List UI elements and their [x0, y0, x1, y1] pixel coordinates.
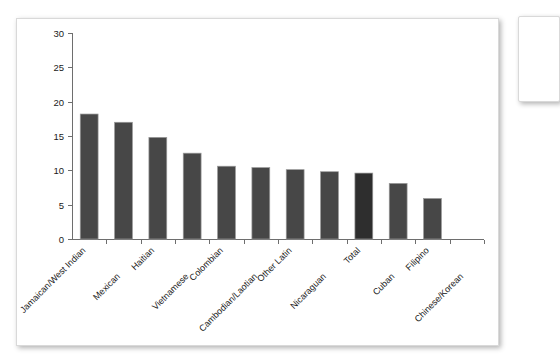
bar-other-latin[interactable]	[286, 170, 304, 239]
x-label-group: Cambodian/Laotian	[197, 271, 259, 333]
x-axis-label: Total	[342, 245, 363, 266]
y-tick-label: 0	[59, 234, 64, 245]
x-label-group: Jamaican/West Indian	[18, 245, 88, 315]
x-axis-label: Cuban	[371, 271, 397, 297]
y-tick-label: 20	[53, 97, 64, 108]
x-axis-label: Colombian	[187, 245, 224, 282]
bar-chart: 051015202530Jamaican/West IndianMexicanH…	[17, 19, 498, 345]
x-axis-label: Jamaican/West Indian	[18, 245, 88, 315]
bar-jamaican-west-indian[interactable]	[80, 114, 98, 239]
x-axis-label: Other Latin	[255, 245, 294, 284]
side-panel-card	[518, 16, 560, 102]
x-axis-label: Haitian	[129, 245, 156, 272]
x-label-group: Filipino	[404, 245, 431, 272]
x-label-group: Haitian	[129, 245, 156, 272]
bar-haitian[interactable]	[149, 137, 167, 239]
bar-vietnamese[interactable]	[183, 153, 201, 239]
y-tick-label: 5	[59, 200, 64, 211]
y-tick-label: 10	[53, 165, 64, 176]
x-label-group: Mexican	[91, 271, 122, 302]
x-label-group: Vietnamese	[150, 271, 191, 312]
bar-cambodian-laotian[interactable]	[252, 168, 270, 239]
x-label-group: Nicaraguan	[288, 271, 328, 311]
x-label-group: Cuban	[371, 271, 397, 297]
chart-card: 051015202530Jamaican/West IndianMexicanH…	[16, 18, 499, 346]
x-axis-label: Chinese/Korean	[413, 271, 466, 324]
bar-mexican[interactable]	[115, 122, 133, 239]
bar-cuban[interactable]	[389, 183, 407, 239]
x-axis-label: Cambodian/Laotian	[197, 271, 259, 333]
bar-filipino[interactable]	[424, 198, 442, 239]
x-axis-label: Nicaraguan	[288, 271, 328, 311]
x-label-group: Other Latin	[255, 245, 294, 284]
x-axis-label: Vietnamese	[150, 271, 191, 312]
y-tick-label: 30	[53, 28, 64, 39]
y-tick-label: 15	[53, 131, 64, 142]
x-axis-label: Filipino	[404, 245, 431, 272]
y-tick-label: 25	[53, 62, 64, 73]
x-label-group: Chinese/Korean	[413, 271, 466, 324]
chart-svg: 051015202530Jamaican/West IndianMexicanH…	[17, 19, 498, 345]
x-axis-label: Mexican	[91, 271, 122, 302]
x-label-group: Colombian	[187, 245, 224, 282]
bar-total[interactable]	[355, 173, 373, 239]
bar-colombian[interactable]	[218, 166, 236, 239]
bar-nicaraguan[interactable]	[321, 172, 339, 239]
x-label-group: Total	[342, 245, 363, 266]
